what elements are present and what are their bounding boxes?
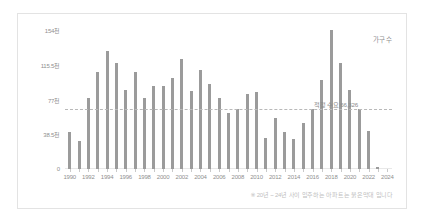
bar bbox=[152, 86, 155, 169]
x-tick-label: 2000 bbox=[157, 174, 170, 180]
bar bbox=[78, 141, 81, 169]
reference-line bbox=[65, 109, 392, 110]
x-axis-labels: 1990199219941996199820002002200420062008… bbox=[65, 174, 392, 184]
plot-area: 적정 수요 66,326 bbox=[65, 30, 392, 169]
bar bbox=[283, 132, 286, 169]
x-tick-label: 2024 bbox=[381, 174, 394, 180]
bar bbox=[339, 63, 342, 170]
x-tick bbox=[275, 169, 276, 172]
x-tick bbox=[163, 169, 164, 172]
x-tick-label: 2022 bbox=[362, 174, 375, 180]
bar bbox=[180, 59, 183, 169]
x-tick-label: 1994 bbox=[101, 174, 114, 180]
x-tick bbox=[303, 169, 304, 172]
x-tick bbox=[369, 169, 370, 172]
x-tick bbox=[257, 169, 258, 172]
x-tick bbox=[387, 169, 388, 172]
x-tick-label: 2006 bbox=[213, 174, 226, 180]
x-tick bbox=[98, 169, 99, 172]
bar bbox=[311, 109, 314, 169]
bar bbox=[274, 118, 277, 169]
bar bbox=[264, 138, 267, 169]
x-tick bbox=[200, 169, 201, 172]
x-tick bbox=[144, 169, 145, 172]
bar bbox=[292, 139, 295, 169]
bar bbox=[236, 109, 239, 169]
x-tick bbox=[70, 169, 71, 172]
x-tick bbox=[154, 169, 155, 172]
x-tick bbox=[135, 169, 136, 172]
x-tick-label: 2012 bbox=[269, 174, 282, 180]
x-tick bbox=[126, 169, 127, 172]
x-tick-label: 2004 bbox=[194, 174, 207, 180]
x-tick bbox=[219, 169, 220, 172]
bar bbox=[367, 131, 370, 169]
x-tick bbox=[238, 169, 239, 172]
x-tick bbox=[191, 169, 192, 172]
bar bbox=[358, 109, 361, 169]
x-tick bbox=[350, 169, 351, 172]
x-tick bbox=[247, 169, 248, 172]
bar bbox=[246, 94, 249, 169]
chart-footnote: ※ 20년 ~ 24년 사이 입주하는 아파트는 붉은막대 입니다 bbox=[250, 190, 393, 199]
x-tick bbox=[341, 169, 342, 172]
x-tick bbox=[172, 169, 173, 172]
x-tick-label: 1992 bbox=[82, 174, 95, 180]
y-axis: 038.5천77천115.5천154천 bbox=[18, 30, 63, 169]
x-tick bbox=[294, 169, 295, 172]
x-tick-label: 2016 bbox=[306, 174, 319, 180]
x-tick-label: 1996 bbox=[119, 174, 132, 180]
x-tick bbox=[79, 169, 80, 172]
reference-line-label: 적정 수요 66,326 bbox=[314, 100, 358, 109]
x-tick-label: 2018 bbox=[325, 174, 338, 180]
x-tick bbox=[322, 169, 323, 172]
x-tick-label: 1998 bbox=[138, 174, 151, 180]
y-tick-label: 154천 bbox=[45, 26, 60, 35]
x-tick bbox=[378, 169, 379, 172]
x-tick-label: 2010 bbox=[250, 174, 263, 180]
bar bbox=[134, 72, 137, 169]
x-tick bbox=[88, 169, 89, 172]
bar bbox=[124, 90, 127, 169]
x-tick bbox=[285, 169, 286, 172]
bar bbox=[171, 78, 174, 169]
bar bbox=[190, 91, 193, 169]
bar bbox=[199, 70, 202, 169]
x-tick bbox=[359, 169, 360, 172]
x-tick bbox=[229, 169, 230, 172]
bar bbox=[255, 92, 258, 169]
bar bbox=[208, 84, 211, 169]
bar bbox=[302, 123, 305, 169]
bar bbox=[320, 80, 323, 169]
bar bbox=[96, 72, 99, 169]
x-tick-label: 2014 bbox=[288, 174, 301, 180]
y-tick-label: 38.5천 bbox=[43, 130, 60, 139]
x-tick-label: 1990 bbox=[63, 174, 76, 180]
x-tick bbox=[331, 169, 332, 172]
bar bbox=[227, 113, 230, 169]
x-tick-label: 2008 bbox=[232, 174, 245, 180]
x-tick bbox=[313, 169, 314, 172]
x-tick-label: 2002 bbox=[176, 174, 189, 180]
bar bbox=[162, 86, 165, 169]
chart-card: 038.5천77천115.5천154천 적정 수요 66,326 1990199… bbox=[17, 13, 407, 209]
x-tick bbox=[266, 169, 267, 172]
x-axis-ticks bbox=[65, 169, 392, 173]
bar bbox=[115, 63, 118, 170]
x-tick bbox=[107, 169, 108, 172]
y-tick-label: 0 bbox=[57, 166, 60, 172]
x-tick bbox=[116, 169, 117, 172]
x-tick bbox=[182, 169, 183, 172]
x-tick bbox=[210, 169, 211, 172]
y-tick-label: 115.5천 bbox=[41, 60, 60, 69]
bar bbox=[68, 132, 71, 169]
legend-series-label: 가구 수 bbox=[373, 34, 392, 44]
x-tick-label: 2020 bbox=[344, 174, 357, 180]
y-tick-label: 77천 bbox=[48, 95, 60, 104]
